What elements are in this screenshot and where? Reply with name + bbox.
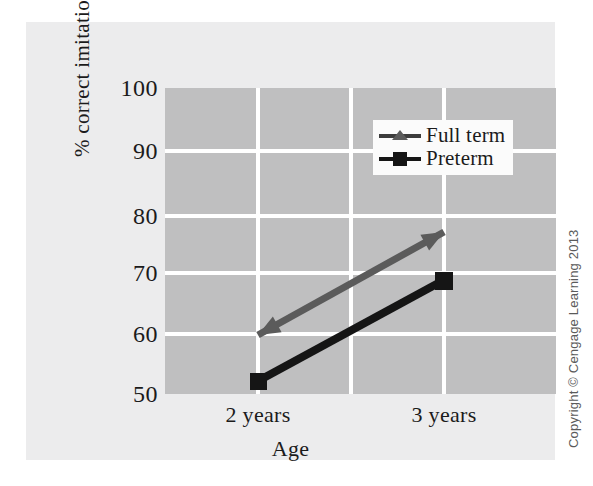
legend: Full term Preterm <box>373 120 513 175</box>
marker-preterm-3-years <box>435 272 453 290</box>
y-tick-label-80: 80 <box>96 204 158 228</box>
legend-entry-full-term: Full term <box>378 124 506 147</box>
y-tick-label-70: 70 <box>96 261 158 285</box>
legend-entry-preterm: Preterm <box>378 147 506 170</box>
x-tick-label-2-years: 2 years <box>188 402 328 428</box>
legend-label-preterm: Preterm <box>426 146 494 171</box>
square-marker-svg <box>378 148 422 170</box>
figure-panel: % correct imitation 100 90 80 70 60 50 <box>26 22 555 460</box>
chart-screenshot: % correct imitation 100 90 80 70 60 50 <box>0 0 593 486</box>
y-tick-label-100: 100 <box>96 76 158 100</box>
triangle-marker-svg <box>378 125 422 147</box>
y-tick-label-90: 90 <box>96 139 158 163</box>
horizontal-gridlines <box>165 151 556 334</box>
square-marker-icon <box>378 148 422 170</box>
legend-label-full-term: Full term <box>426 123 505 148</box>
x-tick-label-3-years: 3 years <box>374 402 514 428</box>
y-axis-tick-labels: 100 90 80 70 60 50 <box>88 88 158 394</box>
y-tick-label-50: 50 <box>96 382 158 406</box>
x-axis-title: Age <box>26 436 555 462</box>
triangle-marker-icon <box>378 125 422 147</box>
y-tick-label-60: 60 <box>96 322 158 346</box>
copyright-notice: Copyright © Cengage Learning 2013 <box>566 229 581 448</box>
marker-preterm-2-years <box>250 373 267 390</box>
